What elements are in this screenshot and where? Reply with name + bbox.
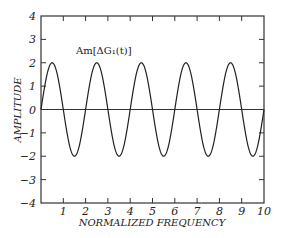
y-tick-label: 0 xyxy=(29,104,36,117)
y-axis-label: AMPLITUDE xyxy=(12,77,23,144)
y-tick-label: −4 xyxy=(20,197,36,210)
x-tick-label: 1 xyxy=(60,205,67,218)
x-tick-label: 9 xyxy=(238,205,245,218)
y-tick-label: 1 xyxy=(29,80,36,93)
curve-annotation: Am[ΔG₁(t)] xyxy=(75,45,132,56)
y-tick-label: 4 xyxy=(28,10,36,23)
x-axis-label: NORMALIZED FREQUENCY xyxy=(78,217,227,228)
x-tick-label: 10 xyxy=(257,205,271,218)
amplitude-chart: 1234567891043210−1−2−3−4 Am[ΔG₁(t)] NORM… xyxy=(0,0,281,238)
y-tick-label: −2 xyxy=(20,150,36,163)
y-tick-label: 3 xyxy=(29,33,36,46)
tick-labels: 1234567891043210−1−2−3−4 xyxy=(20,10,271,218)
y-tick-label: 2 xyxy=(28,57,36,70)
y-tick-label: −3 xyxy=(20,174,36,187)
